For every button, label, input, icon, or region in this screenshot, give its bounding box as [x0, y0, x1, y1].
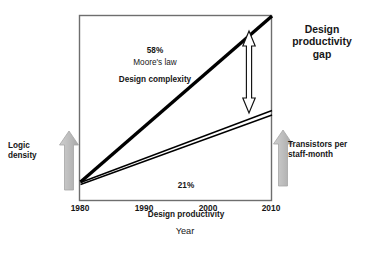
annotation-transistors-per-staff-month: Transistors per staff-month	[288, 140, 347, 159]
x-axis-title: Year	[176, 226, 195, 237]
annotation-design-productivity: 21% Design productivity	[148, 162, 224, 230]
annotation-moores-law: Moore's law	[133, 58, 176, 68]
x-tick-1990: 1990	[135, 203, 154, 213]
annotation-logic-density: Logic density	[8, 141, 37, 160]
annotation-design-productivity-gap: Design productivity gap	[292, 24, 351, 61]
x-tick-2000: 2000	[199, 203, 218, 213]
x-tick-1980: 1980	[71, 203, 90, 213]
x-tick-2010: 2010	[262, 203, 281, 213]
complexity-percent: 58%	[119, 46, 191, 56]
logic-density-arrow-icon	[60, 131, 79, 190]
complexity-label: Design complexity	[119, 75, 191, 85]
productivity-percent: 21%	[148, 181, 224, 191]
